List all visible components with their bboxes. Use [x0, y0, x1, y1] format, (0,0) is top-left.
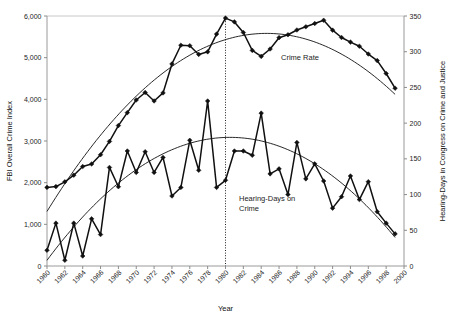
chart-figure: 01,0002,0003,0004,0005,0006,000050100150…	[0, 0, 455, 318]
x-axis-tick-label: 1970	[124, 269, 140, 285]
y-axis-right-tick-label: 350	[410, 13, 422, 20]
y-axis-right-tick-label: 250	[410, 84, 422, 91]
x-axis-tick-label: 1968	[107, 269, 123, 285]
x-axis-tick-label: 1980	[214, 269, 230, 285]
x-axis-title: Year	[218, 304, 234, 313]
data-point-marker	[348, 174, 353, 179]
y-axis-left-tick-label: 6,000	[24, 13, 42, 20]
data-point-marker	[295, 140, 300, 145]
data-point-marker	[232, 149, 237, 154]
data-point-marker	[205, 99, 210, 104]
x-axis-tick-label: 2000	[392, 269, 408, 285]
y-axis-left-tick-label: 3,000	[24, 138, 42, 145]
y-axis-right-tick-label: 150	[410, 155, 422, 162]
data-point-marker	[63, 258, 68, 263]
y-axis-right-tick-label: 0	[410, 263, 414, 270]
data-point-marker	[188, 138, 193, 143]
x-axis-tick-label: 1982	[232, 269, 248, 285]
data-point-marker	[196, 168, 201, 173]
x-axis-tick-label: 1972	[142, 269, 158, 285]
hearing-days-annotation-line1: Hearing-Days on	[239, 194, 295, 203]
data-point-marker	[259, 111, 264, 116]
data-point-marker	[312, 21, 317, 26]
data-point-marker	[143, 149, 148, 154]
data-point-marker	[54, 221, 59, 226]
y-axis-right-tick-label: 100	[410, 191, 422, 198]
y-axis-right-title: Hearing-Days in Congress on Crime and Ju…	[438, 61, 447, 222]
x-axis-tick-label: 1998	[374, 269, 390, 285]
x-axis-tick-label: 1994	[339, 269, 355, 285]
data-point-marker	[304, 24, 309, 29]
x-axis-tick-label: 1960	[35, 269, 51, 285]
data-point-marker	[241, 149, 246, 154]
y-axis-right-tick-label: 50	[410, 227, 418, 234]
x-axis-tick-label: 1988	[285, 269, 301, 285]
x-axis-tick-label: 1996	[357, 269, 373, 285]
x-axis-tick-label: 1990	[303, 269, 319, 285]
x-axis-tick-label: 1986	[267, 269, 283, 285]
x-axis-tick-label: 1966	[89, 269, 105, 285]
x-axis-tick-label: 1976	[178, 269, 194, 285]
x-axis-tick-label: 1992	[321, 269, 337, 285]
data-point-marker	[250, 153, 255, 158]
chart-canvas: 01,0002,0003,0004,0005,0006,000050100150…	[0, 0, 455, 318]
data-point-marker	[107, 165, 112, 170]
data-point-marker	[45, 185, 50, 190]
crime-rate-annotation: Crime Rate	[281, 53, 319, 62]
x-axis-tick-label: 1978	[196, 269, 212, 285]
x-axis-tick-label: 1974	[160, 269, 176, 285]
y-axis-right-tick-label: 300	[410, 48, 422, 55]
y-axis-left-tick-label: 2,000	[24, 179, 42, 186]
y-axis-left-tick-label: 1,000	[24, 221, 42, 228]
x-axis-tick-label: 1984	[249, 269, 265, 285]
y-axis-left-tick-label: 5,000	[24, 54, 42, 61]
y-axis-right-tick-label: 200	[410, 120, 422, 127]
x-axis-tick-label: 1962	[53, 269, 69, 285]
series-hearing-days	[45, 99, 398, 263]
y-axis-left-tick-label: 4,000	[24, 96, 42, 103]
y-axis-left-tick-label: 0	[38, 263, 42, 270]
series-line-hearing-days	[47, 101, 395, 260]
x-axis-tick-label: 1964	[71, 269, 87, 285]
data-point-marker	[116, 184, 121, 189]
data-point-marker	[125, 149, 130, 154]
data-point-marker	[45, 248, 50, 253]
data-point-marker	[179, 43, 184, 48]
y-axis-left-title: FBI Overall Crime Index	[5, 101, 14, 181]
series-line-crime-rate	[47, 18, 395, 187]
hearing-days-annotation-line2: Crime	[239, 204, 259, 213]
series-crime-rate	[45, 16, 398, 190]
data-point-marker	[80, 254, 85, 259]
